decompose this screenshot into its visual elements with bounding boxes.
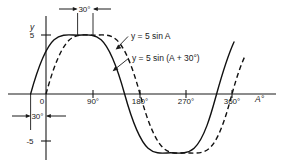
top-arrow-left-head xyxy=(73,7,78,11)
x-axis-label: A° xyxy=(254,94,265,104)
sine-wave-figure: 30° 30° y A° 5 -5 0 90° xyxy=(0,0,284,166)
y-tick-label-minus5: -5 xyxy=(26,137,34,146)
plot-svg: 30° 30° y A° 5 -5 0 90° xyxy=(0,0,284,166)
x-tick-label-270: 270° xyxy=(178,97,195,106)
x-tick-label-360: 360° xyxy=(224,97,241,106)
y-tick-label-5: 5 xyxy=(30,31,35,40)
x-tick-label-180: 180° xyxy=(132,97,149,106)
top-arrow-right-head xyxy=(93,7,98,11)
bottom-arrow-left-head xyxy=(26,114,31,118)
top-shift-annotation: 30° xyxy=(59,5,111,36)
curve-label-shifted: y = 5 sin (A + 30°) xyxy=(132,53,200,63)
x-tick-label-0: 0 xyxy=(40,97,45,106)
top-shift-label: 30° xyxy=(78,5,90,14)
x-tick-label-90: 90° xyxy=(87,97,99,106)
bottom-arrow-right-head xyxy=(46,114,51,118)
curve-label-reference: y = 5 sin A xyxy=(131,31,171,41)
bottom-shift-label: 30° xyxy=(31,112,43,121)
